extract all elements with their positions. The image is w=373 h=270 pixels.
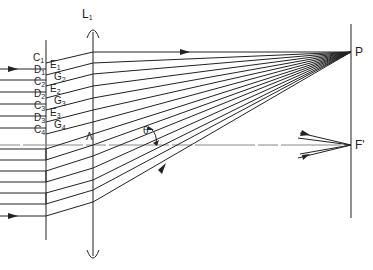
grating-point-label: C4: [34, 125, 45, 136]
grating-point-label: D1: [34, 65, 45, 76]
grating-point-label: D3: [34, 113, 45, 124]
arrow-icon: [300, 130, 310, 136]
lens-label: L1: [82, 8, 93, 21]
point-p-label: P: [355, 46, 363, 58]
grating-point-label: G3: [54, 96, 66, 107]
diagram-lines: [0, 0, 373, 270]
arrow-icon: [158, 163, 166, 174]
arrow-icon: [180, 49, 190, 55]
focus-label: F': [355, 139, 365, 151]
grating-point-label: E3: [50, 108, 61, 119]
grating-point-label: G2: [54, 72, 66, 83]
angle-label: θ: [143, 126, 149, 136]
arrow-icon: [8, 213, 18, 219]
wavelength-label: Λ: [86, 132, 93, 142]
grating-point-label: D2: [34, 89, 45, 100]
grating-point-label: E2: [50, 84, 61, 95]
grating-point-label: C2: [34, 77, 45, 88]
grating-lens-diagram: L1 P F' θ Λ C1D1E1C2G2D2E2C3G3D3E3C4G4: [0, 0, 373, 270]
arrow-icon: [302, 154, 310, 160]
arrow-icon: [8, 66, 18, 72]
grating-point-label: C3: [34, 101, 45, 112]
grating-point-label: G4: [54, 120, 66, 131]
grating-point-label: C1: [33, 53, 44, 64]
grating-point-label: E1: [50, 60, 61, 71]
